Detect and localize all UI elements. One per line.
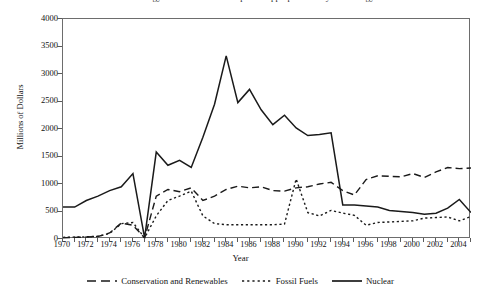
x-tick-mark [435, 238, 436, 242]
legend-item[interactable]: Fossil Fuels [242, 276, 318, 286]
legend-label: Fossil Fuels [276, 276, 318, 286]
chart-legend: Conservation and RenewablesFossil FuelsN… [0, 273, 481, 289]
y-tick-mark [57, 18, 62, 19]
y-tick-label: 3000 [18, 69, 58, 78]
x-tick-mark [388, 238, 389, 242]
x-tick-mark [318, 238, 319, 242]
y-tick-label: 1500 [18, 151, 58, 160]
x-tick-mark [330, 238, 331, 242]
y-tick-mark [57, 156, 62, 157]
legend-swatch-dashed-icon [87, 277, 117, 285]
x-tick-mark [353, 238, 354, 242]
x-tick-mark [458, 238, 459, 242]
legend-label: Conservation and Renewables [121, 276, 228, 286]
series-line [63, 168, 471, 238]
x-tick-mark [470, 238, 471, 242]
y-tick-label: 3500 [18, 41, 58, 50]
x-tick-mark [412, 238, 413, 242]
x-tick-mark [272, 238, 273, 242]
x-tick-mark [423, 238, 424, 242]
x-tick-mark [179, 238, 180, 242]
y-tick-mark [57, 46, 62, 47]
x-tick-mark [167, 238, 168, 242]
y-tick-mark [57, 183, 62, 184]
x-tick-mark [225, 238, 226, 242]
x-tick-mark [307, 238, 308, 242]
x-tick-mark [342, 238, 343, 242]
y-tick-mark [57, 101, 62, 102]
y-tick-label: 4000 [18, 14, 58, 23]
y-tick-mark [57, 211, 62, 212]
plot-area [62, 18, 470, 238]
x-tick-mark [237, 238, 238, 242]
x-tick-mark [190, 238, 191, 242]
x-tick-mark [365, 238, 366, 242]
x-tick-mark [109, 238, 110, 242]
x-tick-mark [97, 238, 98, 242]
y-tick-label: 2500 [18, 96, 58, 105]
chart-title-cropped: Federal Energy Research and Development … [0, 0, 481, 3]
x-tick-mark [155, 238, 156, 242]
y-tick-label: 2000 [18, 124, 58, 133]
x-tick-mark [132, 238, 133, 242]
x-tick-mark [249, 238, 250, 242]
chart-figure: Federal Energy Research and Development … [0, 0, 481, 295]
series-line [63, 56, 471, 238]
x-tick-mark [260, 238, 261, 242]
legend-swatch-dotted-icon [242, 277, 272, 285]
chart-title: Federal Energy Research and Development … [0, 0, 481, 3]
series-line [63, 179, 471, 238]
legend-label: Nuclear [366, 276, 394, 286]
y-tick-label: 500 [18, 206, 58, 215]
x-tick-mark [377, 238, 378, 242]
x-tick-mark [295, 238, 296, 242]
series-lines [63, 19, 471, 239]
x-tick-mark [283, 238, 284, 242]
legend-item[interactable]: Conservation and Renewables [87, 276, 228, 286]
legend-item[interactable]: Nuclear [332, 276, 394, 286]
x-tick-mark [400, 238, 401, 242]
x-tick-mark [62, 238, 63, 242]
x-tick-mark [144, 238, 145, 242]
x-axis-label: Year [0, 253, 481, 263]
x-tick-mark [120, 238, 121, 242]
y-tick-label: 1000 [18, 179, 58, 188]
x-tick-mark [447, 238, 448, 242]
x-tick-label: 2004 [443, 241, 473, 249]
x-tick-mark [202, 238, 203, 242]
x-tick-mark [85, 238, 86, 242]
y-tick-mark [57, 128, 62, 129]
x-tick-mark [74, 238, 75, 242]
x-tick-mark [214, 238, 215, 242]
legend-swatch-solid-icon [332, 277, 362, 285]
y-tick-mark [57, 73, 62, 74]
